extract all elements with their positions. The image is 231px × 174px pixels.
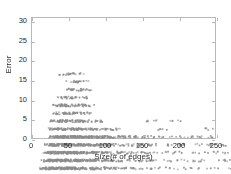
- x-tick: [143, 135, 144, 138]
- y-tick-label: 20: [19, 57, 27, 65]
- y-tick-label: 0: [23, 135, 27, 143]
- x-tick: [32, 18, 33, 21]
- x-tick: [106, 135, 107, 138]
- y-tick-label: 15: [19, 76, 27, 84]
- y-tick: [32, 120, 35, 121]
- y-tick: [212, 61, 215, 62]
- y-tick-label: 10: [19, 96, 27, 104]
- y-tick: [32, 61, 35, 62]
- plot-area: [31, 17, 216, 139]
- y-tick: [212, 120, 215, 121]
- x-tick-label: 150: [136, 142, 149, 150]
- y-tick-label: 25: [19, 37, 27, 45]
- y-tick: [212, 101, 215, 102]
- y-tick: [212, 22, 215, 23]
- x-tick: [217, 135, 218, 138]
- x-tick-label: 250: [210, 142, 223, 150]
- y-tick: [32, 101, 35, 102]
- x-tick: [69, 18, 70, 21]
- x-axis-title: Size(# of edges): [31, 152, 216, 161]
- x-tick: [106, 18, 107, 21]
- x-tick-label: 200: [173, 142, 186, 150]
- y-tick: [212, 81, 215, 82]
- x-tick-label: 50: [64, 142, 72, 150]
- x-tick: [217, 18, 218, 21]
- x-tick-label: 100: [99, 142, 112, 150]
- scatter-plot-figure: 051015202530 050100150200250 Size(# of e…: [0, 0, 231, 174]
- x-tick-label: 0: [29, 142, 33, 150]
- y-tick-label: 30: [19, 17, 27, 25]
- x-tick: [180, 18, 181, 21]
- x-tick: [143, 18, 144, 21]
- x-tick: [69, 135, 70, 138]
- y-tick-label: 5: [23, 116, 27, 124]
- y-tick: [32, 81, 35, 82]
- y-tick: [32, 42, 35, 43]
- y-axis-title: Error: [4, 39, 13, 91]
- x-tick: [180, 135, 181, 138]
- data-points-layer: [32, 18, 231, 174]
- y-tick: [32, 22, 35, 23]
- y-tick: [212, 42, 215, 43]
- x-tick: [32, 135, 33, 138]
